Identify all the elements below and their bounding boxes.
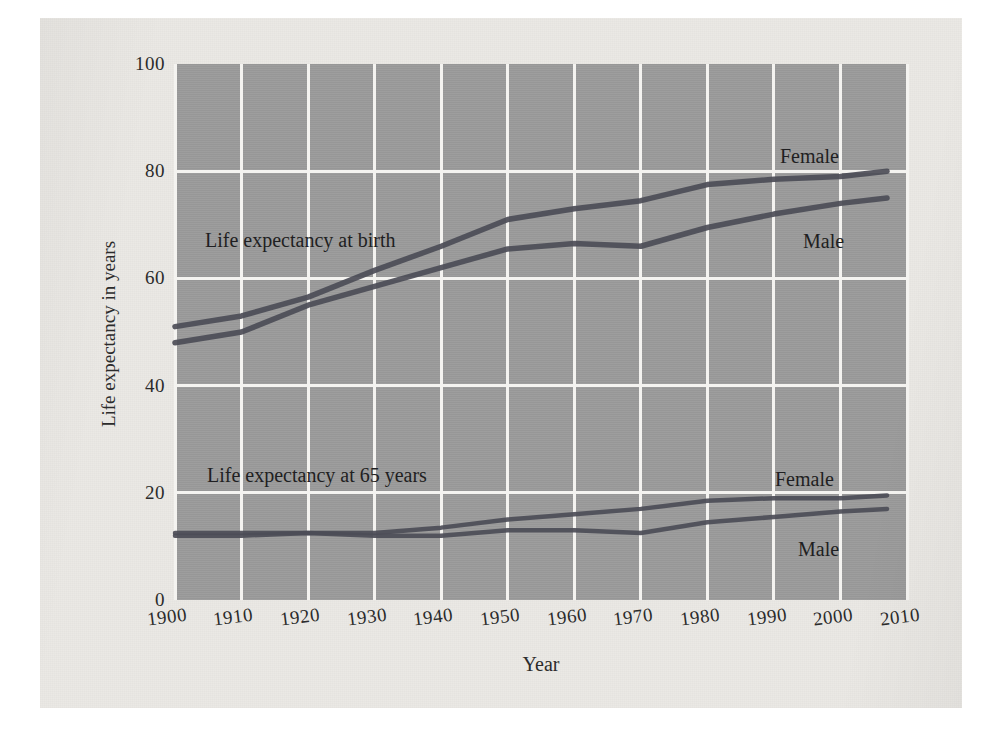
annotation-birth-male: Male bbox=[803, 230, 844, 253]
x-tick-label: 1980 bbox=[680, 606, 720, 628]
y-tick-label: 40 bbox=[145, 375, 165, 397]
x-tick-label: 1930 bbox=[347, 606, 387, 628]
figure-page: 100 80 60 40 20 0 Life expectancy in yea… bbox=[0, 0, 1000, 740]
annotation-at65-female: Female bbox=[775, 468, 834, 491]
x-axis-ticks: 1900 1910 1920 1930 1940 1950 1960 1970 … bbox=[175, 606, 907, 646]
y-tick-label: 20 bbox=[145, 482, 165, 504]
scanned-page: 100 80 60 40 20 0 Life expectancy in yea… bbox=[40, 18, 962, 708]
y-tick-label: 80 bbox=[145, 160, 165, 182]
x-tick-label: 1900 bbox=[147, 606, 187, 628]
x-tick-label: 1950 bbox=[480, 606, 520, 628]
x-tick-label: 1960 bbox=[547, 606, 587, 628]
x-tick-label: 2010 bbox=[880, 606, 920, 628]
x-tick-label: 1910 bbox=[213, 606, 253, 628]
x-tick-label: 1920 bbox=[280, 606, 320, 628]
y-tick-label: 60 bbox=[145, 267, 165, 289]
x-axis-title: Year bbox=[175, 653, 907, 676]
annotation-life-expectancy-at-birth: Life expectancy at birth bbox=[205, 229, 395, 252]
x-tick-label: 2000 bbox=[813, 606, 853, 628]
annotation-life-expectancy-at-65: Life expectancy at 65 years bbox=[207, 464, 427, 487]
annotation-at65-male: Male bbox=[798, 538, 839, 561]
x-tick-label: 1970 bbox=[613, 606, 653, 628]
y-tick-label: 100 bbox=[135, 53, 165, 75]
annotation-birth-female: Female bbox=[780, 145, 839, 168]
x-tick-label: 1940 bbox=[413, 606, 453, 628]
y-axis-title: Life expectancy in years bbox=[96, 188, 122, 488]
x-tick-label: 1990 bbox=[747, 606, 787, 628]
line-birth-male bbox=[175, 198, 887, 343]
plot-area: Life expectancy at birth Life expectancy… bbox=[175, 64, 907, 600]
